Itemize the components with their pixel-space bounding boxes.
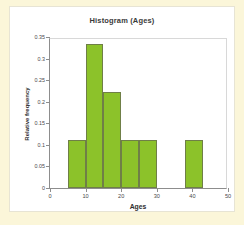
x-tick-label: 40 [189, 193, 195, 199]
y-tick-label: 0.2 [38, 99, 46, 105]
y-tick-label: 0.25 [35, 77, 46, 83]
x-axis-title: Ages [49, 203, 227, 210]
histogram-bar [68, 140, 86, 188]
x-tick-mark [192, 188, 193, 192]
x-tick-label: 0 [48, 193, 51, 199]
histogram-bar [121, 140, 139, 188]
y-tick-label: 0.1 [38, 142, 46, 148]
x-tick-mark [157, 188, 158, 192]
x-tick-mark [86, 188, 87, 192]
y-tick-mark [46, 102, 50, 103]
y-tick-mark [46, 37, 50, 38]
y-tick-label: 0.05 [35, 163, 46, 169]
x-tick-label: 50 [225, 193, 231, 199]
x-tick-label: 20 [118, 193, 124, 199]
y-axis-title: Relative frequency [22, 38, 32, 189]
plot-area: 00.050.10.150.20.250.30.35 01020304050 [49, 38, 227, 189]
x-tick-label: 30 [154, 193, 160, 199]
y-tick-label: 0.15 [35, 120, 46, 126]
x-tick-mark [50, 188, 51, 192]
y-tick-mark [46, 145, 50, 146]
y-tick-mark [46, 166, 50, 167]
histogram-bar [103, 92, 121, 188]
x-tick-mark [121, 188, 122, 192]
chart-card: Histogram (Ages) Relative frequency 00.0… [9, 6, 235, 212]
histogram-screenshot: Histogram (Ages) Relative frequency 00.0… [0, 0, 244, 225]
y-tick-mark [46, 123, 50, 124]
chart-title: Histogram (Ages) [10, 16, 234, 25]
histogram-bar [86, 44, 104, 188]
y-tick-mark [46, 80, 50, 81]
histogram-bar [185, 140, 203, 188]
x-tick-label: 10 [82, 193, 88, 199]
y-tick-label: 0 [42, 185, 45, 191]
y-axis-title-label: Relative frequency [24, 87, 30, 140]
y-tick-mark [46, 59, 50, 60]
y-tick-label: 0.35 [35, 34, 46, 40]
x-tick-mark [228, 188, 229, 192]
histogram-bar [139, 140, 157, 188]
y-tick-label: 0.3 [38, 56, 46, 62]
